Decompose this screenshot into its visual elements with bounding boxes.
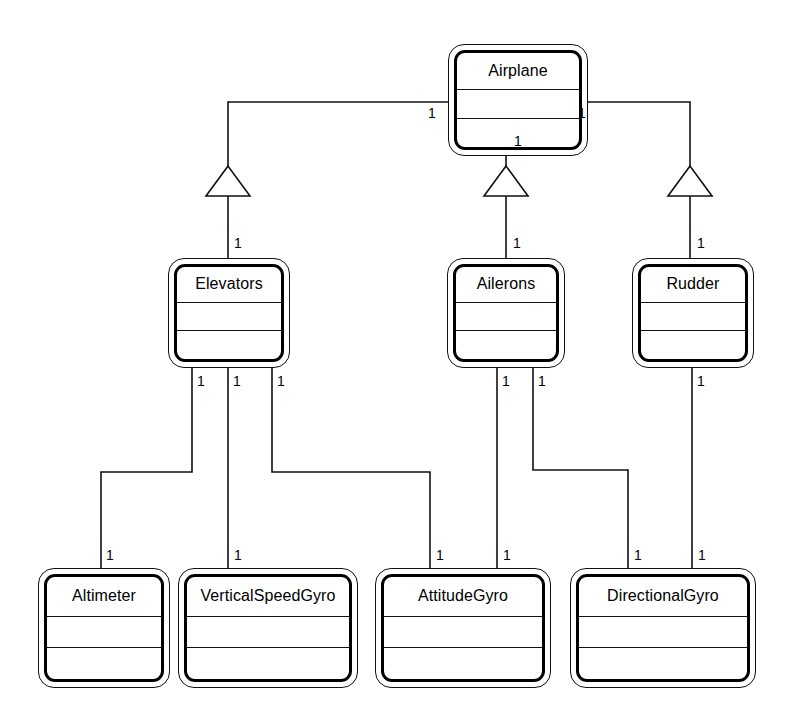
multiplicity-label-m-vsg-top: 1 [234,548,242,562]
class-attributes-compartment [177,303,281,332]
class-box-inner-frame: Elevators [174,264,284,362]
multiplicity-label-m-airplane-bottom: 1 [514,134,522,148]
edge-airplane-rudder[interactable] [588,102,712,258]
multiplicity-label-m-elevators-top: 1 [234,236,242,250]
class-box-directionalgyro[interactable]: DirectionalGyro [570,568,756,688]
multiplicity-label-m-att-top-2: 1 [503,548,511,562]
class-box-inner-frame: Ailerons [453,264,559,362]
multiplicity-label-m-rudder-top: 1 [697,236,705,250]
class-attributes-compartment [641,303,745,332]
edge-line [272,368,430,568]
multiplicity-label-m-elev-b1: 1 [197,374,205,388]
class-operations-compartment [177,331,281,359]
class-operations-compartment [456,331,556,359]
class-box-verticalspeedgyro[interactable]: VerticalSpeedGyro [178,568,358,688]
class-box-elevators[interactable]: Elevators [168,258,290,368]
class-attributes-compartment [384,617,542,649]
generalization-triangle [484,166,528,196]
multiplicity-label-m-elev-b2: 1 [233,374,241,388]
multiplicity-label-m-rud-b1: 1 [697,374,705,388]
class-attributes-compartment [456,303,556,332]
multiplicity-label-m-ail-b2: 1 [538,374,546,388]
multiplicity-label-m-elev-b3: 1 [277,374,285,388]
edge-line [101,368,192,568]
edge-airplane-elevators[interactable] [206,102,448,258]
class-name-ailerons: Ailerons [456,267,556,303]
class-box-inner-frame: Rudder [638,264,748,362]
class-operations-compartment [47,648,161,679]
class-operations-compartment [384,648,542,679]
edge-airplane-ailerons[interactable] [484,156,528,258]
class-box-inner-frame: VerticalSpeedGyro [184,574,352,682]
uml-diagram-canvas: AirplaneElevatorsAileronsRudderAltimeter… [0,0,789,709]
edge-elevators-altimeter[interactable] [101,368,192,568]
class-name-verticalspeedgyro: VerticalSpeedGyro [187,577,349,617]
class-name-altimeter: Altimeter [47,577,161,617]
multiplicity-label-m-airplane-right: 1 [578,106,586,120]
generalization-triangle [206,166,250,196]
multiplicity-label-m-ailerons-top: 1 [513,236,521,250]
class-name-directionalgyro: DirectionalGyro [579,577,747,617]
class-attributes-compartment [579,617,747,649]
edge-ailerons-directionalgyro[interactable] [533,368,628,568]
edge-line [588,102,690,196]
class-operations-compartment [187,648,349,679]
class-name-rudder: Rudder [641,267,745,303]
class-operations-compartment [641,331,745,359]
class-attributes-compartment [187,617,349,649]
class-name-attitudegyro: AttitudeGyro [384,577,542,617]
edge-line [228,102,448,196]
class-box-attitudegyro[interactable]: AttitudeGyro [375,568,551,688]
class-attributes-compartment [47,617,161,649]
multiplicity-label-m-dir-top-1: 1 [634,548,642,562]
class-box-ailerons[interactable]: Ailerons [447,258,565,368]
class-box-inner-frame: AttitudeGyro [381,574,545,682]
multiplicity-label-m-att-top-1: 1 [436,548,444,562]
class-box-rudder[interactable]: Rudder [632,258,754,368]
multiplicity-label-m-ail-b1: 1 [502,374,510,388]
class-attributes-compartment [457,90,579,119]
class-name-elevators: Elevators [177,267,281,303]
multiplicity-label-m-airplane-left: 1 [428,106,436,120]
generalization-triangle [668,166,712,196]
multiplicity-label-m-dir-top-2: 1 [698,548,706,562]
class-operations-compartment [579,648,747,679]
class-box-altimeter[interactable]: Altimeter [38,568,170,688]
multiplicity-label-m-altimeter-top: 1 [106,548,114,562]
class-box-inner-frame: Altimeter [44,574,164,682]
edge-elevators-attitudegyro[interactable] [272,368,430,568]
class-name-airplane: Airplane [457,53,579,90]
class-box-inner-frame: DirectionalGyro [576,574,750,682]
edge-line [533,368,628,568]
